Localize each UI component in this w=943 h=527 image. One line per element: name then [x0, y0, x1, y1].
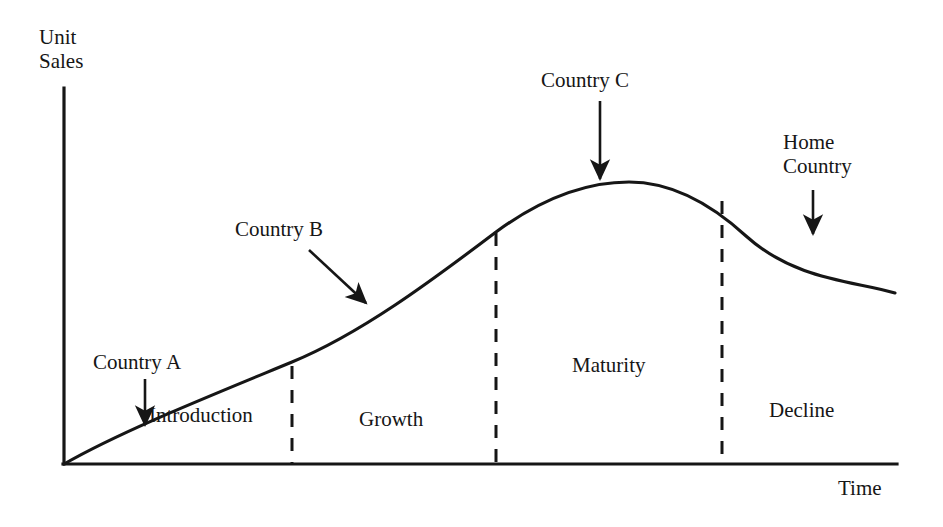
callout-label-country-c: Country C: [541, 69, 629, 92]
product-life-cycle-chart: Unit Sales Time Introduction Growth Matu…: [0, 0, 943, 527]
x-axis-title: Time: [838, 477, 882, 500]
stage-label-maturity: Maturity: [572, 354, 646, 377]
y-axis-title: Unit Sales: [39, 26, 83, 74]
callout-home-country-line1: Home: [783, 130, 834, 154]
callout-label-country-b: Country B: [235, 218, 323, 241]
country-b-arrow: [309, 250, 366, 303]
callout-label-country-a: Country A: [93, 351, 181, 374]
stage-label-introduction: Introduction: [149, 404, 253, 427]
y-axis-title-line2: Sales: [39, 49, 83, 73]
chart-canvas: [0, 0, 943, 527]
callout-label-home-country: Home Country: [783, 131, 852, 179]
y-axis-title-line1: Unit: [39, 25, 76, 49]
callout-home-country-line2: Country: [783, 155, 852, 179]
stage-label-growth: Growth: [359, 408, 423, 431]
stage-label-decline: Decline: [769, 399, 834, 422]
